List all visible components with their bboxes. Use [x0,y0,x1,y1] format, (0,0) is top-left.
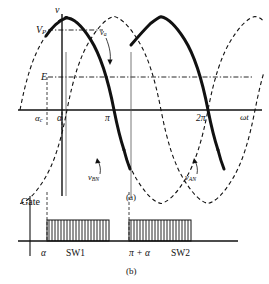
vbn-leader-arrowhead [95,158,100,164]
tick-label-2pi: 2π [196,113,206,123]
gate-sw2-label: SW2 [171,248,190,258]
output-curve-segment-1 [66,18,124,150]
panel-b-caption: (b) [126,266,137,276]
tick-label-alpha: α [57,113,62,123]
gate-pulse-train-sw1 [47,220,109,241]
curve-label-va: va [100,27,107,37]
va-leader-line [106,38,110,62]
e-level-label: E [41,71,47,82]
va-leader-arrowhead [107,59,112,65]
output-curve-segment-1-rise [46,18,66,36]
van-leader-arrowhead [192,158,197,164]
vp-subscript: P [42,28,46,35]
x-axis-label: ωt [240,112,249,122]
gate-pi-alpha-label: π + α [129,248,150,258]
y-axis-label: v [55,4,59,15]
vp-level-label: VP [36,24,46,35]
panel-a-caption: (a) [126,192,136,202]
vbn-subscript: BN [92,176,99,182]
output-curve-tail-1 [124,150,130,169]
curve-label-vbn: vBN [88,172,99,182]
tick-label-alpha-c: αc [35,113,42,123]
gate-sw1-label: SW1 [66,248,85,258]
van-subscript: AN [189,176,196,182]
gate-alpha-label: α [41,248,46,258]
va-subscript: a [104,31,107,37]
gate-pulse-train-sw2 [129,220,191,241]
output-curve-segment-2 [131,17,218,150]
alpha-c-subscript: c [40,117,43,123]
figure-canvas [0,0,269,284]
output-curve-tail-2 [218,150,224,169]
tick-label-pi: π [105,113,110,123]
gate-label: Gate [21,196,40,207]
curve-label-van: vAN [185,172,196,182]
